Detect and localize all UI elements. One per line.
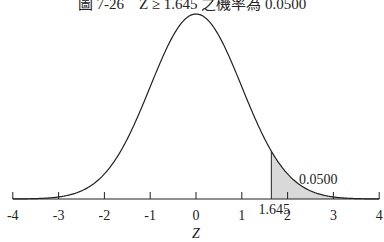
critical-value-label: 1.645: [259, 202, 291, 217]
tail-probability-label: 0.0500: [299, 172, 338, 187]
x-axis-label: Z: [192, 226, 200, 241]
x-tick-label: 3: [330, 208, 337, 223]
normal-curve-chart: -4-3-2-1012341.6450.0500Z: [0, 0, 384, 242]
x-tick-label: -2: [99, 208, 111, 223]
x-tick-label: -1: [144, 208, 156, 223]
x-tick-label: 4: [376, 208, 383, 223]
x-tick-label: -3: [53, 208, 65, 223]
x-tick-label: 0: [193, 208, 200, 223]
x-tick-label: 1: [238, 208, 245, 223]
x-tick-label: -4: [7, 208, 19, 223]
